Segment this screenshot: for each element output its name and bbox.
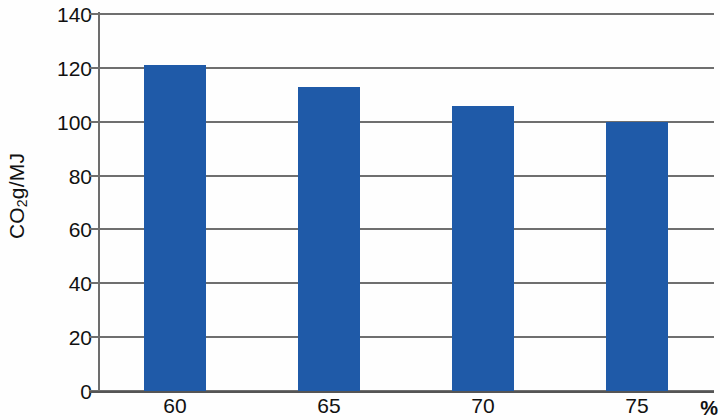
gridline	[98, 13, 714, 15]
bar	[606, 122, 668, 391]
x-axis-tick-label: 70	[448, 394, 518, 418]
y-axis-tick	[89, 336, 98, 338]
y-axis-tick	[89, 67, 98, 69]
bar-chart-figure: CO2g/MJ 020406080100120140 % 60657075	[0, 0, 720, 420]
y-axis-title-prefix: CO	[5, 207, 28, 239]
y-axis-tick	[89, 175, 98, 177]
x-axis-tick-labels: % 60657075	[98, 394, 720, 420]
x-axis-unit-label: %	[700, 396, 718, 420]
y-axis-tick-label: 40	[30, 273, 92, 294]
x-axis-tick-label: 65	[294, 394, 364, 418]
y-axis-title-subscript: 2	[14, 199, 30, 207]
y-axis-tick	[89, 228, 98, 230]
y-axis-tick-label: 0	[30, 381, 92, 402]
y-axis-title: CO2g/MJ	[0, 0, 34, 392]
y-axis-tick-label: 60	[30, 219, 92, 240]
y-axis-tick-label: 120	[30, 57, 92, 78]
y-axis-tick-label: 20	[30, 327, 92, 348]
y-axis-tick	[89, 121, 98, 123]
y-axis-tick-labels: 020406080100120140	[30, 0, 92, 420]
plot-area	[98, 14, 714, 391]
y-axis-tick	[89, 282, 98, 284]
y-axis-title-suffix: g/MJ	[5, 153, 28, 199]
bar	[452, 106, 514, 391]
y-axis-tick-label: 100	[30, 111, 92, 132]
y-axis-tick-label: 80	[30, 165, 92, 186]
y-axis-tick	[89, 13, 98, 15]
x-axis-line	[89, 391, 714, 393]
x-axis-tick-label: 60	[140, 394, 210, 418]
bar	[298, 87, 360, 391]
x-axis-tick-label: 75	[602, 394, 672, 418]
y-axis-title-text: CO2g/MJ	[5, 153, 29, 239]
y-axis-tick-label: 140	[30, 4, 92, 25]
bar	[144, 65, 206, 391]
